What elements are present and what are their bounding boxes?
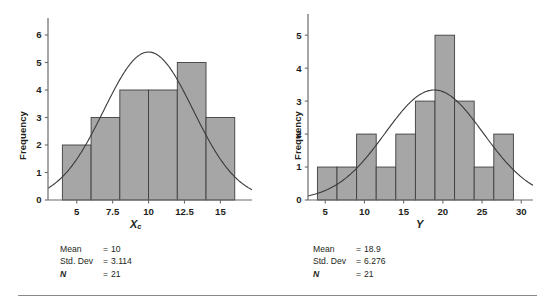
stats-sd-equals: = [356, 255, 364, 267]
stats-n-label: N [313, 268, 356, 280]
stats-table-right: Mean = 18.9 Std. Dev = 6.276 N = 21 [313, 243, 386, 280]
x-tick-label: 12.5 [175, 206, 194, 217]
y-tick-label: 2 [36, 139, 41, 150]
y-tick-label: 4 [36, 84, 42, 95]
x-axis-label-left: Xc [130, 218, 142, 231]
y-tick-label: 3 [296, 96, 301, 107]
x-axis-label-right: Y [416, 218, 423, 231]
histogram-bar [474, 167, 494, 200]
y-tick-label: 3 [36, 112, 41, 123]
stats-row-n: N = 21 [313, 268, 386, 280]
x-tick-label: 7.5 [106, 206, 120, 217]
y-axis-label-right: Frequency [292, 111, 303, 160]
stats-row-sd: Std. Dev = 3.114 [60, 255, 132, 267]
stats-mean-value: 18.9 [364, 243, 386, 255]
stats-mean-equals: = [103, 243, 111, 255]
stats-row-n: N = 21 [60, 268, 132, 280]
stats-mean-label: Mean [313, 243, 356, 255]
stats-sd-label: Std. Dev [60, 255, 103, 267]
chart-panel-xc: 012345657.51012.515 Frequency Xc Mean = … [0, 0, 275, 290]
x-tick-label: 10 [143, 206, 154, 217]
histogram-bar [376, 167, 396, 200]
y-tick-label: 1 [36, 167, 42, 178]
y-axis-ticks: 0123456 [36, 29, 48, 205]
x-axis-label-left-sub: c [137, 222, 141, 231]
histogram-bar [435, 35, 455, 200]
x-tick-label: 20 [438, 206, 449, 217]
y-tick-label: 5 [36, 57, 42, 68]
stats-sd-equals: = [103, 255, 111, 267]
y-tick-label: 4 [296, 63, 302, 74]
y-tick-label: 6 [36, 29, 41, 40]
stats-n-equals: = [103, 268, 111, 280]
x-axis-ticks: 57.51012.515 [74, 200, 226, 217]
histogram-y-plot: 01234551015202530 [275, 0, 551, 230]
histogram-bar [177, 63, 206, 201]
stats-row-mean: Mean = 18.9 [313, 243, 386, 255]
stats-n-equals: = [356, 268, 364, 280]
stats-sd-label: Std. Dev [313, 255, 356, 267]
stats-table-left: Mean = 10 Std. Dev = 3.114 N = 21 [60, 243, 132, 280]
histogram-figure: 012345657.51012.515 Frequency Xc Mean = … [0, 0, 551, 306]
x-tick-label: 25 [477, 206, 488, 217]
histogram-bar [396, 134, 416, 200]
stats-row-mean: Mean = 10 [60, 243, 132, 255]
histogram-xc-plot: 012345657.51012.515 [0, 0, 275, 230]
y-tick-label: 1 [296, 161, 302, 172]
stats-n-label: N [60, 268, 103, 280]
stats-n-value: 21 [111, 268, 132, 280]
stats-sd-value: 6.276 [364, 255, 386, 267]
x-tick-label: 15 [398, 206, 409, 217]
bars-group [62, 63, 234, 201]
x-tick-label: 30 [516, 206, 527, 217]
histogram-bar [337, 167, 357, 200]
bars-group [317, 35, 513, 200]
stats-block-right: Mean = 18.9 Std. Dev = 6.276 N = 21 [313, 243, 386, 280]
histogram-bar [317, 167, 337, 200]
stats-n-value: 21 [364, 268, 386, 280]
histogram-bar [120, 90, 149, 200]
stats-block-left: Mean = 10 Std. Dev = 3.114 N = 21 [60, 243, 132, 280]
histogram-bar [455, 101, 475, 200]
y-axis-label-left: Frequency [17, 111, 28, 160]
x-tick-label: 15 [215, 206, 226, 217]
stats-mean-equals: = [356, 243, 364, 255]
histogram-bar [149, 90, 178, 200]
y-tick-label: 0 [36, 194, 41, 205]
footer-divider [18, 295, 537, 296]
x-axis-label-right-main: Y [416, 218, 423, 230]
x-axis-ticks: 51015202530 [323, 200, 527, 217]
stats-mean-value: 10 [111, 243, 132, 255]
x-tick-label: 5 [323, 206, 329, 217]
stats-mean-label: Mean [60, 243, 103, 255]
histogram-bar [91, 118, 120, 201]
histogram-bar [415, 101, 435, 200]
stats-sd-value: 3.114 [111, 255, 132, 267]
x-tick-label: 5 [74, 206, 80, 217]
y-tick-label: 0 [296, 194, 301, 205]
stats-row-sd: Std. Dev = 6.276 [313, 255, 386, 267]
histogram-bar [357, 134, 377, 200]
y-tick-label: 5 [296, 30, 302, 41]
x-tick-label: 10 [359, 206, 370, 217]
